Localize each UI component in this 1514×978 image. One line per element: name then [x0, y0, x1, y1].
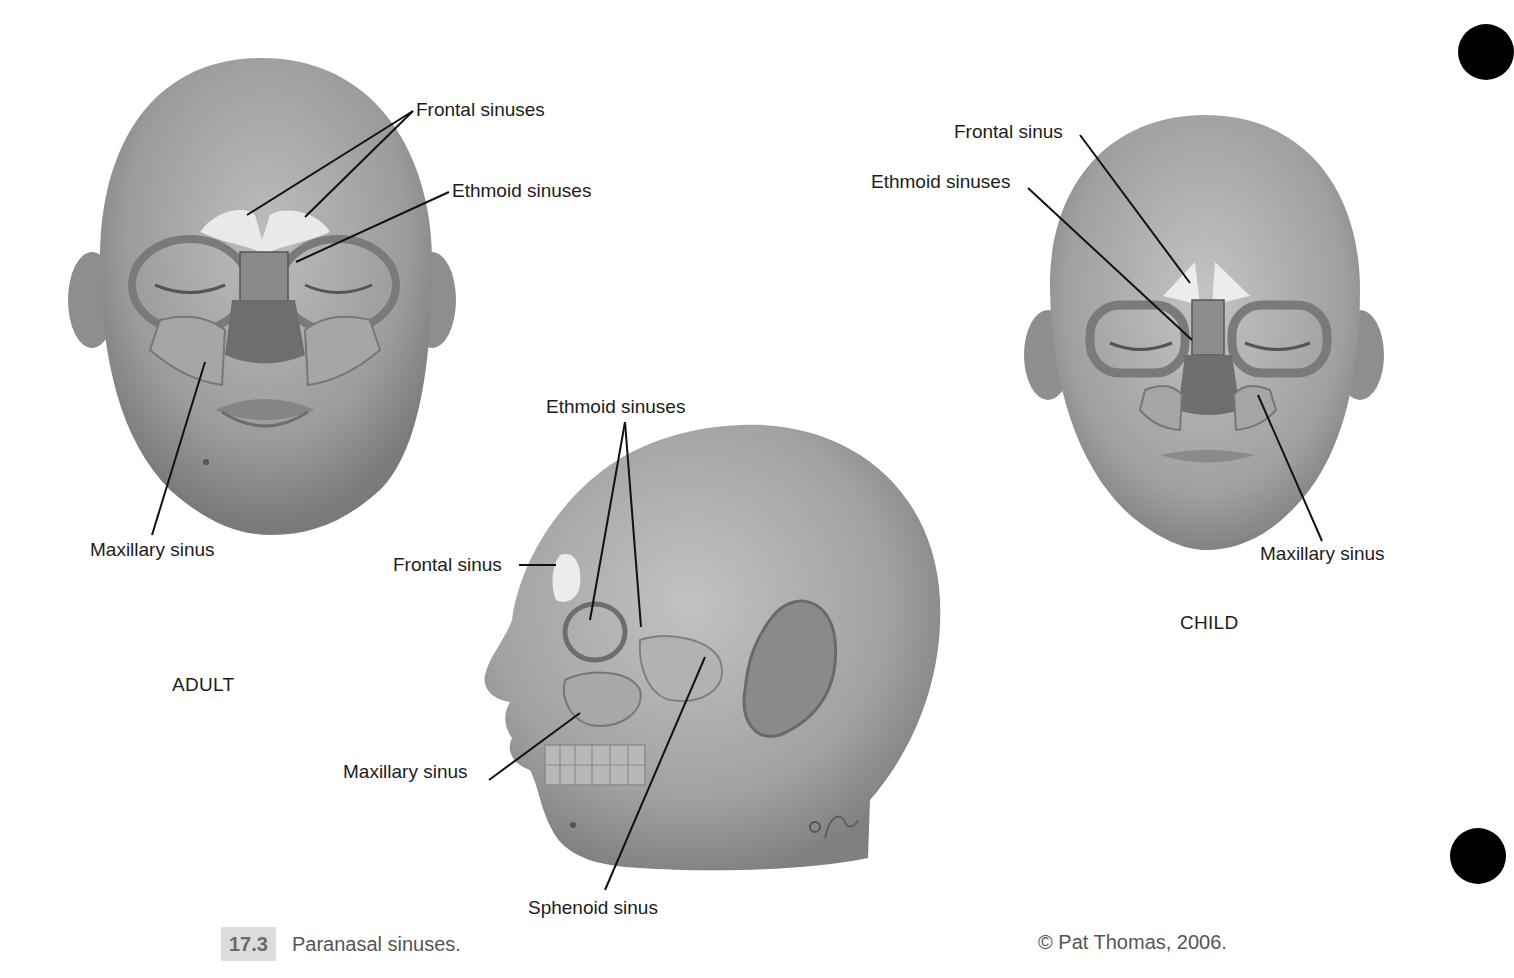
- figure-number: 17.3: [221, 927, 276, 961]
- child-group-label: CHILD: [1180, 612, 1239, 634]
- adult-ethmoid-sinuses-label: Ethmoid sinuses: [452, 180, 591, 202]
- adult-group-label: ADULT: [172, 674, 234, 696]
- lateral-sphenoid-sinus-label: Sphenoid sinus: [528, 897, 658, 919]
- page-tab-marker-top: [1458, 24, 1514, 80]
- lateral-ethmoid-sinuses-label: Ethmoid sinuses: [546, 396, 685, 418]
- copyright-notice: © Pat Thomas, 2006.: [1038, 931, 1227, 954]
- lateral-frontal-sinus-label: Frontal sinus: [393, 554, 502, 576]
- adult-frontal-sinuses-label: Frontal sinuses: [416, 99, 545, 121]
- child-frontal-sinus-label: Frontal sinus: [954, 121, 1063, 143]
- child-front-head-illustration: [1024, 115, 1384, 550]
- adult-front-head-illustration: [68, 58, 456, 535]
- child-maxillary-sinus-label: Maxillary sinus: [1260, 543, 1385, 565]
- page-tab-marker-bottom: [1450, 828, 1506, 884]
- adult-lateral-head-illustration: [485, 425, 941, 871]
- figure-caption: 17.3 Paranasal sinuses.: [221, 927, 461, 961]
- child-ethmoid-sinuses-label: Ethmoid sinuses: [871, 171, 1010, 193]
- figure-title: Paranasal sinuses.: [292, 933, 461, 956]
- lateral-maxillary-sinus-label: Maxillary sinus: [343, 761, 468, 783]
- adult-maxillary-sinus-label: Maxillary sinus: [90, 539, 215, 561]
